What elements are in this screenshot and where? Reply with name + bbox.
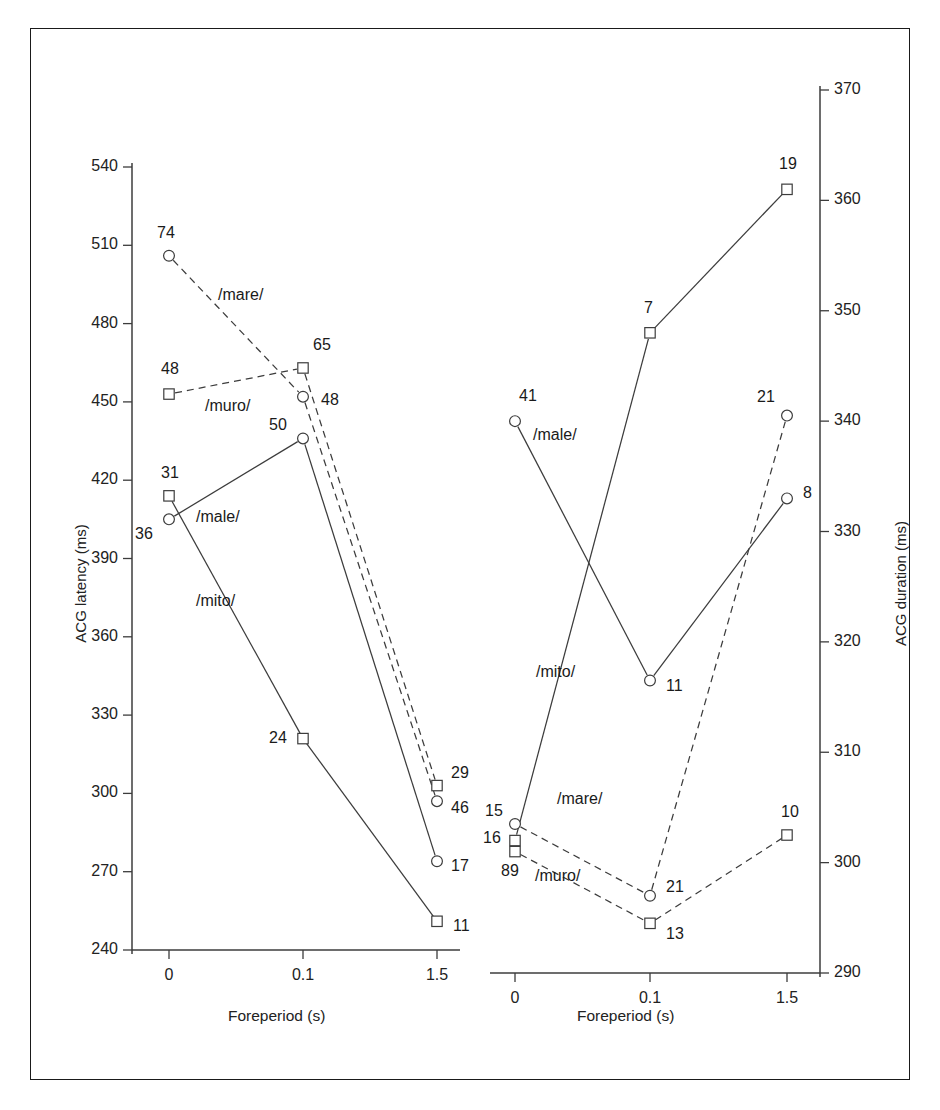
- series-annotation-mito: /mito/: [536, 663, 575, 681]
- y-tick-label: 370: [834, 80, 861, 98]
- figure-page: ACG latency (ms) ACG duration (ms) Forep…: [0, 0, 940, 1110]
- data-point-label: 11: [453, 917, 470, 935]
- y-tick-label: 420: [60, 470, 118, 488]
- y-tick-label: 540: [60, 157, 118, 175]
- data-point-label: 13: [666, 925, 684, 943]
- data-point-label: 46: [451, 799, 469, 817]
- y-tick-label: 390: [60, 549, 118, 567]
- data-point-label: 74: [157, 224, 175, 242]
- y-tick-label: 290: [834, 963, 861, 981]
- data-point-label: 11: [666, 677, 683, 695]
- data-point-label: 19: [779, 155, 797, 173]
- y-tick-label: 270: [60, 862, 118, 880]
- data-point-label: 29: [451, 764, 469, 782]
- y-tick-label: 300: [834, 853, 861, 871]
- data-point-label: 15: [485, 802, 503, 820]
- series-annotation-muro: /muro/: [205, 397, 250, 415]
- data-point-label: 89: [501, 862, 519, 880]
- series-annotation-male: /male/: [196, 508, 240, 526]
- y-tick-label: 510: [60, 235, 118, 253]
- right-yaxis-title: ACG duration (ms): [892, 494, 909, 674]
- series-annotation-male: /male/: [533, 426, 577, 444]
- data-point-label: 50: [269, 416, 287, 434]
- data-point-label: 31: [161, 464, 179, 482]
- y-tick-label: 310: [834, 742, 861, 760]
- x-tick-label: 0: [147, 966, 191, 984]
- y-tick-label: 240: [60, 940, 118, 958]
- data-point-label: 21: [757, 388, 775, 406]
- data-point-label: 41: [519, 387, 537, 405]
- data-point-label: 24: [269, 729, 287, 747]
- x-tick-label: 0.1: [281, 966, 325, 984]
- data-point-label: 17: [451, 857, 469, 875]
- x-tick-label: 1.5: [415, 966, 459, 984]
- series-annotation-mare: /mare/: [218, 286, 263, 304]
- y-tick-label: 320: [834, 632, 861, 650]
- y-tick-label: 450: [60, 392, 118, 410]
- y-tick-label: 300: [60, 783, 118, 801]
- data-point-label: 21: [666, 878, 684, 896]
- y-tick-label: 340: [834, 411, 861, 429]
- series-annotation-mare: /mare/: [557, 790, 602, 808]
- data-point-label: 48: [161, 360, 179, 378]
- x-tick-label: 1.5: [765, 989, 809, 1007]
- x-tick-label: 0: [493, 989, 537, 1007]
- y-tick-label: 330: [60, 705, 118, 723]
- y-tick-label: 360: [834, 190, 861, 208]
- data-point-label: 16: [483, 829, 501, 847]
- series-annotation-mito: /mito/: [196, 592, 235, 610]
- y-tick-label: 480: [60, 314, 118, 332]
- x-tick-label: 0.1: [628, 989, 672, 1007]
- right-xaxis-title: Foreperiod (s): [577, 1007, 674, 1025]
- series-annotation-muro: /muro/: [535, 867, 580, 885]
- data-point-label: 10: [781, 803, 799, 821]
- data-point-label: 8: [803, 484, 812, 502]
- y-tick-label: 330: [834, 522, 861, 540]
- data-point-label: 48: [321, 391, 339, 409]
- y-tick-label: 350: [834, 301, 861, 319]
- plot-canvas: [0, 0, 940, 1110]
- data-point-label: 36: [135, 525, 153, 543]
- y-tick-label: 360: [60, 627, 118, 645]
- left-xaxis-title: Foreperiod (s): [228, 1007, 325, 1025]
- data-point-label: 65: [313, 336, 331, 354]
- data-point-label: 7: [644, 299, 653, 317]
